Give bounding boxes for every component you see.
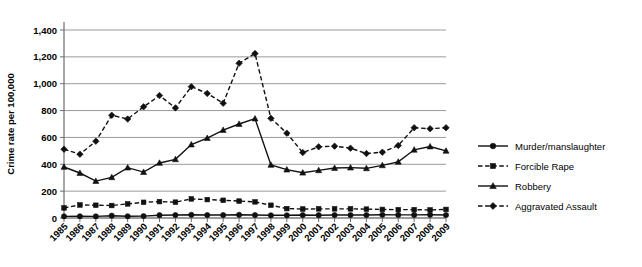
datapoint-circle-marker bbox=[77, 214, 82, 219]
datapoint-circle-marker bbox=[236, 212, 241, 217]
datapoint-square-marker bbox=[444, 207, 449, 212]
datapoint-diamond-marker bbox=[93, 138, 100, 145]
datapoint-diamond-marker bbox=[379, 149, 386, 156]
legend-label: Murder/manslaughter bbox=[515, 141, 605, 152]
datapoint-diamond-marker bbox=[252, 50, 259, 57]
datapoint-square-marker bbox=[364, 207, 369, 212]
y-tick-label: 0 bbox=[52, 213, 57, 224]
datapoint-square-marker bbox=[78, 203, 83, 208]
datapoint-square-marker bbox=[109, 203, 114, 208]
datapoint-square-marker bbox=[125, 202, 130, 207]
datapoint-circle-marker bbox=[427, 212, 432, 217]
datapoint-triangle-marker bbox=[109, 174, 115, 180]
datapoint-circle-marker bbox=[300, 212, 305, 217]
datapoint-square-marker bbox=[396, 207, 401, 212]
y-tick-label: 1,000 bbox=[33, 78, 57, 89]
datapoint-circle-marker bbox=[443, 212, 448, 217]
datapoint-circle-marker bbox=[252, 212, 257, 217]
legend-diamond-marker bbox=[489, 202, 496, 209]
datapoint-diamond-marker bbox=[443, 125, 450, 131]
datapoint-square-marker bbox=[173, 200, 178, 205]
legend-label: Forcible Rape bbox=[515, 161, 574, 172]
datapoint-diamond-marker bbox=[156, 92, 163, 99]
datapoint-circle-marker bbox=[348, 212, 353, 217]
datapoint-triangle-marker bbox=[252, 116, 258, 122]
datapoint-circle-marker bbox=[189, 212, 194, 217]
y-tick-label: 600 bbox=[41, 132, 57, 143]
y-tick-label: 400 bbox=[41, 159, 57, 170]
datapoint-square-marker bbox=[141, 200, 146, 205]
legend-item-murder-manslaughter[interactable]: Murder/manslaughter bbox=[478, 141, 605, 152]
datapoint-diamond-marker bbox=[109, 112, 116, 119]
datapoint-diamond-marker bbox=[427, 125, 434, 132]
y-tick-label: 1,200 bbox=[33, 51, 57, 62]
datapoint-circle-marker bbox=[268, 213, 273, 218]
series-polyline bbox=[64, 54, 446, 155]
datapoint-square-marker bbox=[94, 203, 99, 208]
datapoint-diamond-marker bbox=[77, 151, 84, 158]
legend-item-forcible-rape[interactable]: Forcible Rape bbox=[478, 161, 574, 172]
datapoint-diamond-marker bbox=[331, 143, 338, 150]
datapoint-diamond-marker bbox=[220, 100, 227, 107]
datapoint-square-marker bbox=[428, 208, 433, 213]
datapoint-circle-marker bbox=[61, 214, 66, 219]
datapoint-diamond-marker bbox=[347, 145, 354, 152]
datapoint-circle-marker bbox=[380, 212, 385, 217]
datapoint-circle-marker bbox=[364, 212, 369, 217]
datapoint-circle-marker bbox=[284, 213, 289, 218]
datapoint-square-marker bbox=[412, 207, 417, 212]
legend-square-marker bbox=[491, 164, 496, 169]
datapoint-square-marker bbox=[380, 207, 385, 212]
datapoint-circle-marker bbox=[173, 212, 178, 217]
datapoint-diamond-marker bbox=[315, 144, 322, 151]
datapoint-square-marker bbox=[62, 206, 67, 211]
legend-circle-marker bbox=[490, 143, 496, 149]
datapoint-square-marker bbox=[332, 207, 337, 212]
legend-item-robbery[interactable]: Robbery bbox=[478, 181, 551, 192]
datapoint-circle-marker bbox=[125, 214, 130, 219]
datapoint-square-marker bbox=[189, 197, 194, 202]
datapoint-circle-marker bbox=[412, 212, 417, 217]
datapoint-circle-marker bbox=[396, 212, 401, 217]
y-tick-label: 800 bbox=[41, 105, 57, 116]
legend-item-aggravated-assault[interactable]: Aggravated Assault bbox=[478, 201, 597, 212]
datapoint-circle-marker bbox=[141, 213, 146, 218]
datapoint-square-marker bbox=[205, 197, 210, 202]
legend-label: Robbery bbox=[515, 181, 551, 192]
datapoint-circle-marker bbox=[316, 213, 321, 218]
datapoint-diamond-marker bbox=[61, 146, 68, 153]
datapoint-square-marker bbox=[348, 207, 353, 212]
datapoint-square-marker bbox=[157, 199, 162, 204]
datapoint-circle-marker bbox=[221, 212, 226, 217]
series-aggravated-assault bbox=[61, 50, 450, 157]
datapoint-square-marker bbox=[316, 207, 321, 212]
datapoint-circle-marker bbox=[205, 212, 210, 217]
datapoint-circle-marker bbox=[109, 213, 114, 218]
datapoint-circle-marker bbox=[93, 214, 98, 219]
chart-canvas: 02004006008001,0001,2001,400198519861987… bbox=[0, 0, 642, 267]
crime-rate-line-chart: 02004006008001,0001,2001,400198519861987… bbox=[0, 0, 642, 267]
datapoint-triangle-marker bbox=[427, 143, 433, 149]
datapoint-circle-marker bbox=[332, 212, 337, 217]
datapoint-triangle-marker bbox=[125, 165, 131, 171]
datapoint-diamond-marker bbox=[204, 90, 211, 97]
y-tick-label: 1,400 bbox=[33, 25, 57, 36]
y-axis-title: Crime rate per 100,000 bbox=[5, 73, 16, 174]
legend-label: Aggravated Assault bbox=[515, 201, 597, 212]
datapoint-square-marker bbox=[253, 200, 258, 205]
datapoint-diamond-marker bbox=[284, 130, 291, 137]
x-tick-label: 2009 bbox=[429, 221, 452, 244]
datapoint-square-marker bbox=[269, 203, 274, 208]
series-forcible-rape bbox=[62, 197, 449, 213]
datapoint-diamond-marker bbox=[363, 150, 370, 157]
datapoint-diamond-marker bbox=[236, 60, 243, 67]
datapoint-square-marker bbox=[300, 207, 305, 212]
datapoint-square-marker bbox=[285, 206, 290, 211]
series-robbery bbox=[61, 116, 449, 184]
datapoint-square-marker bbox=[221, 198, 226, 203]
datapoint-circle-marker bbox=[157, 213, 162, 218]
datapoint-square-marker bbox=[237, 199, 242, 204]
y-tick-label: 200 bbox=[41, 186, 57, 197]
